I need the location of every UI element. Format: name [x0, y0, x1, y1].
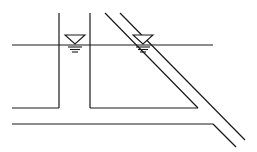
hydraulic-diagram [0, 0, 257, 152]
triangle-marker-icon [65, 35, 85, 44]
inclined-pipe-inner-wall [105, 13, 198, 108]
inclined-pipe-outer-wall [120, 13, 245, 140]
water-level-symbol-vertical [65, 35, 85, 52]
